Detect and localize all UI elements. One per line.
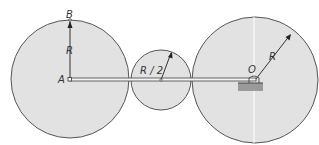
ground-support	[238, 83, 263, 91]
connecting-arm	[70, 78, 256, 81]
label-A: A	[57, 74, 65, 85]
mechanism-diagram: B R A R / 2 O R	[0, 0, 319, 145]
label-R-right: R	[269, 51, 276, 62]
point-A-marker	[68, 78, 72, 82]
label-R-left: R	[66, 45, 73, 56]
middle-center-marker	[160, 79, 162, 81]
label-R-half: R / 2	[140, 65, 163, 76]
label-B: B	[66, 9, 73, 20]
label-O: O	[248, 64, 256, 75]
